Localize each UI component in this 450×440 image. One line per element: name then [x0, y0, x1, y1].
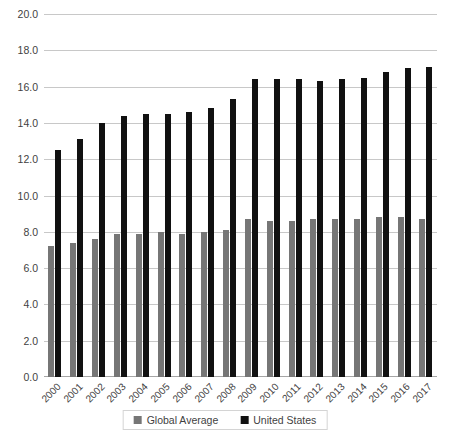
chart-legend: Global Average United States — [123, 410, 328, 430]
bar-group — [284, 14, 306, 377]
bar-group — [175, 14, 197, 377]
bar-group — [350, 14, 372, 377]
bar-united-states — [426, 67, 432, 377]
bar-group — [240, 14, 262, 377]
bar-united-states — [252, 79, 258, 377]
legend-label: Global Average — [147, 414, 219, 426]
bar-united-states — [143, 114, 149, 377]
legend-item-global-average: Global Average — [134, 414, 219, 426]
legend-item-united-states: United States — [240, 414, 316, 426]
bar-group — [197, 14, 219, 377]
y-axis-tick-label: 18.0 — [0, 44, 38, 56]
bar-global-average — [419, 219, 425, 377]
bar-united-states — [361, 78, 367, 377]
bar-global-average — [310, 219, 316, 377]
bar-united-states — [405, 68, 411, 377]
bar-global-average — [179, 234, 185, 377]
y-axis-tick-label: 12.0 — [0, 153, 38, 165]
x-axis-tick: 2017 — [415, 379, 437, 415]
bar-groups — [44, 14, 437, 377]
bar-united-states — [383, 72, 389, 377]
bar-united-states — [121, 116, 127, 377]
bar-chart: 0.02.04.06.08.010.012.014.016.018.020.0 … — [0, 0, 450, 440]
bar-group — [262, 14, 284, 377]
bar-global-average — [245, 219, 251, 377]
legend-swatch-icon — [134, 416, 142, 424]
bar-global-average — [354, 219, 360, 377]
y-axis-tick-label: 20.0 — [0, 8, 38, 20]
bar-group — [328, 14, 350, 377]
bar-global-average — [48, 246, 54, 377]
bar-united-states — [99, 123, 105, 377]
bar-united-states — [339, 79, 345, 377]
bar-global-average — [223, 230, 229, 377]
bar-global-average — [289, 221, 295, 377]
y-axis-tick-label: 6.0 — [0, 262, 38, 274]
bar-global-average — [332, 219, 338, 377]
bar-group — [66, 14, 88, 377]
bar-global-average — [267, 221, 273, 377]
bar-global-average — [376, 217, 382, 377]
y-axis-tick-label: 4.0 — [0, 298, 38, 310]
bar-global-average — [92, 239, 98, 377]
bar-united-states — [165, 114, 171, 377]
bar-united-states — [274, 79, 280, 377]
y-axis-tick-label: 10.0 — [0, 190, 38, 202]
bar-group — [219, 14, 241, 377]
bar-global-average — [398, 217, 404, 377]
bar-group — [371, 14, 393, 377]
bar-united-states — [55, 150, 61, 377]
bar-group — [131, 14, 153, 377]
bar-global-average — [136, 234, 142, 377]
bar-group — [306, 14, 328, 377]
bar-global-average — [70, 243, 76, 377]
legend-swatch-icon — [240, 416, 248, 424]
legend-label: United States — [253, 414, 316, 426]
bar-united-states — [186, 112, 192, 377]
y-axis-tick-label: 16.0 — [0, 81, 38, 93]
y-axis-tick-label: 8.0 — [0, 226, 38, 238]
bar-united-states — [208, 108, 214, 377]
bar-united-states — [230, 99, 236, 377]
bar-group — [109, 14, 131, 377]
bar-global-average — [201, 232, 207, 377]
bar-group — [88, 14, 110, 377]
bar-group — [44, 14, 66, 377]
y-axis-tick-label: 2.0 — [0, 335, 38, 347]
bar-group — [415, 14, 437, 377]
bar-global-average — [158, 232, 164, 377]
y-axis-tick-label: 14.0 — [0, 117, 38, 129]
plot-area — [44, 14, 437, 377]
x-axis-tick-label: 2011 — [280, 381, 303, 404]
bar-united-states — [317, 81, 323, 377]
bar-group — [393, 14, 415, 377]
y-axis-tick-label: 0.0 — [0, 371, 38, 383]
bar-united-states — [296, 79, 302, 377]
bar-group — [153, 14, 175, 377]
bar-global-average — [114, 234, 120, 377]
bar-united-states — [77, 139, 83, 377]
